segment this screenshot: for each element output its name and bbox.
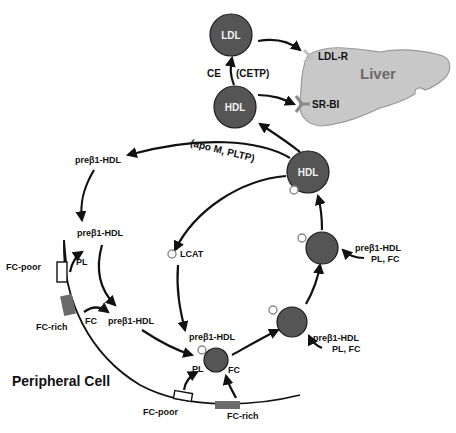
- prebeta-right-lower-sub: PL, FC: [332, 344, 361, 354]
- fc-bottom-arrow: [226, 376, 236, 398]
- fc-rich-domain-left: [60, 294, 76, 316]
- fc-poor-left-label: FC-poor: [6, 262, 41, 272]
- fc-poor-domain-bottom: [173, 390, 192, 401]
- liver-label: Liver: [360, 65, 396, 82]
- ce-label: CE: [207, 68, 221, 79]
- bottom-to-right-lower-arrow: [232, 330, 278, 355]
- hdl-upper-label: HDL: [225, 102, 246, 113]
- prebeta-bottom-label: preβ1-HDL: [189, 332, 236, 342]
- hdl-to-ldl-arrow: [231, 58, 234, 85]
- sr-bi-label: SR-BI: [312, 99, 339, 110]
- ldl-to-ldlr-arrow: [258, 40, 300, 50]
- prebeta-top-label: preβ1-HDL: [75, 155, 122, 165]
- hdl-metabolism-diagram: Liver LDL-R SR-BI LDL HDL CE (CETP) HDL …: [0, 0, 456, 433]
- peripheral-cell-label: Peripheral Cell: [12, 373, 110, 389]
- right-lower-to-upper-arrow: [306, 265, 320, 304]
- lcat-label: LCAT: [180, 249, 204, 259]
- particle-right-upper: [306, 232, 338, 264]
- apoa1-marker-icon: [290, 186, 298, 194]
- lcat-marker-icon: [168, 250, 176, 258]
- fc-poor-bottom-label: FC-poor: [143, 407, 178, 417]
- pl-bottom-arrow: [184, 372, 197, 390]
- fc-rich-bottom-label: FC-rich: [227, 411, 259, 421]
- prebeta-left-to-mid-arrow: [99, 245, 115, 305]
- hdl-to-lcat-arrow: [175, 176, 286, 250]
- apoa1-right-upper-marker-icon: [298, 234, 306, 242]
- pl-bottom-label: PL: [192, 364, 204, 374]
- prebeta-mid-to-particle-arrow: [142, 330, 192, 355]
- apoa1-bottom-marker-icon: [198, 346, 206, 354]
- lcat-to-particle-arrow: [177, 265, 185, 330]
- fc-rich-domain-bottom: [215, 401, 240, 409]
- prebeta-left-label: preβ1-HDL: [77, 228, 124, 238]
- fc-left-label: FC: [85, 316, 97, 326]
- hdl-mature-label: HDL: [298, 167, 319, 178]
- prebeta-top-to-left-arrow: [81, 170, 94, 220]
- fc-left-arrow: [84, 308, 108, 313]
- nascent-particle-bottom: [204, 348, 228, 372]
- ldl-label: LDL: [221, 30, 240, 41]
- fc-rich-left-label: FC-rich: [36, 322, 68, 332]
- cetp-label: (CETP): [236, 68, 269, 79]
- fc-bottom-label: FC: [228, 365, 240, 375]
- prebeta-right-upper-label: preβ1-HDL: [355, 243, 402, 253]
- pl-left-label: PL: [76, 257, 88, 267]
- right-upper-to-mature-arrow: [318, 196, 322, 230]
- hdl-to-srbi-arrow: [258, 95, 294, 104]
- prebeta-mid-label: preβ1-HDL: [108, 316, 155, 326]
- prebeta-right-upper-sub: PL, FC: [371, 254, 400, 264]
- ldl-r-label: LDL-R: [318, 51, 349, 62]
- fc-poor-domain-left: [57, 262, 67, 282]
- particle-right-lower: [277, 307, 307, 337]
- prebeta-right-lower-label: preβ1-HDL: [313, 333, 360, 343]
- apoa1-right-lower-marker-icon: [269, 306, 277, 314]
